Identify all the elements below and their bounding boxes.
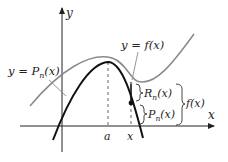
polynomial-bracket bbox=[140, 105, 147, 124]
polynomial-bracket-label: Pn(x) bbox=[147, 108, 175, 123]
f-leader-line bbox=[132, 52, 138, 80]
remainder-label: Rn(x) bbox=[143, 87, 172, 102]
remainder-bracket bbox=[136, 84, 143, 101]
x-point-label: x bbox=[127, 130, 134, 143]
pn-leader-line bbox=[49, 80, 66, 96]
polynomial-point bbox=[129, 101, 134, 106]
polynomial-curve-label: y = Pn(x) bbox=[7, 64, 60, 80]
a-label: a bbox=[104, 130, 111, 143]
function-curve-label: y = f(x) bbox=[120, 38, 164, 52]
function-bracket bbox=[176, 84, 185, 125]
function-bracket-label: f(x) bbox=[185, 97, 205, 110]
taylor-diagram: y x y = f(x) y = Pn(x) a x Rn(x) Pn(x) f… bbox=[0, 0, 228, 162]
function-point bbox=[130, 82, 133, 85]
y-axis-label: y bbox=[65, 6, 73, 20]
x-axis-label: x bbox=[208, 108, 215, 122]
